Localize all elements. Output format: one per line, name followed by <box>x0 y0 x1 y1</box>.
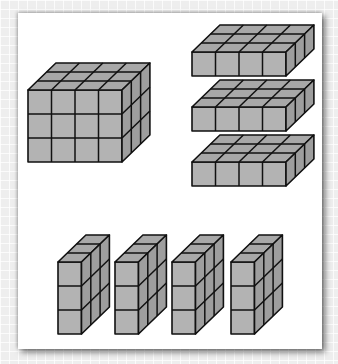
full-box <box>28 63 150 162</box>
front-face <box>115 262 139 334</box>
layer-3 <box>192 135 314 186</box>
slice-3 <box>172 235 223 334</box>
front-face <box>58 262 82 334</box>
slice-1 <box>58 235 109 334</box>
front-face <box>231 262 255 334</box>
layer-1 <box>192 25 314 76</box>
layer-2 <box>192 80 314 131</box>
front-face <box>172 262 196 334</box>
cube-decomposition-diagram <box>0 0 338 364</box>
slice-2 <box>115 235 166 334</box>
slice-4 <box>231 235 282 334</box>
